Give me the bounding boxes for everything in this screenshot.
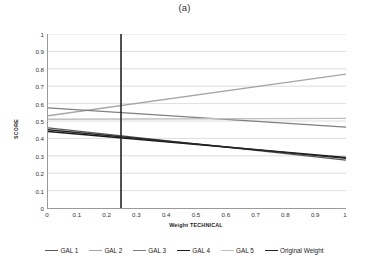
legend-item[interactable]: GAL 3 bbox=[133, 247, 166, 254]
x-tick-label: 0.6 bbox=[214, 211, 238, 218]
x-tick-label: 0.1 bbox=[65, 211, 89, 218]
x-tick-label: 0.3 bbox=[124, 211, 148, 218]
series-line bbox=[48, 108, 346, 127]
y-axis-tick-labels: 1 0.9 0.8 0.7 0.6 0.5 0.4 0.3 0.2 0.1 0 bbox=[14, 18, 44, 218]
plot-region bbox=[47, 34, 346, 209]
legend-item-label: GAL 1 bbox=[60, 247, 78, 254]
chart-legend: GAL 1GAL 2GAL 3GAL 4GAL 5Original Weight bbox=[0, 240, 369, 260]
series-line bbox=[48, 130, 346, 159]
legend-item-label: GAL 4 bbox=[192, 247, 210, 254]
y-tick-label: 1 bbox=[18, 31, 44, 38]
y-tick-label: 0.2 bbox=[18, 170, 44, 177]
x-tick-label: 0.5 bbox=[184, 211, 208, 218]
series-line bbox=[48, 74, 346, 116]
y-tick-label: 0.5 bbox=[18, 118, 44, 125]
y-tick-label: 0.3 bbox=[18, 153, 44, 160]
legend-item-label: Original Weight bbox=[280, 247, 324, 254]
legend-swatch-icon bbox=[221, 250, 234, 251]
legend-item-label: GAL 5 bbox=[236, 247, 254, 254]
legend-item[interactable]: GAL 2 bbox=[89, 247, 122, 254]
y-tick-label: 0.9 bbox=[18, 48, 44, 55]
legend-item[interactable]: GAL 1 bbox=[45, 247, 78, 254]
chart-area: SCORE 1 0.9 0.8 0.7 0.6 0.5 0.4 0.3 0.2 … bbox=[0, 18, 369, 240]
series-line bbox=[48, 118, 346, 119]
x-tick-label: 0.9 bbox=[303, 211, 327, 218]
series-canvas bbox=[48, 34, 346, 208]
x-tick-label: 0.8 bbox=[273, 211, 297, 218]
y-tick-label: 0.7 bbox=[18, 83, 44, 90]
legend-swatch-icon bbox=[89, 250, 102, 251]
legend-item-label: GAL 2 bbox=[104, 247, 122, 254]
figure-panel: (a) SCORE 1 0.9 0.8 0.7 0.6 0.5 0.4 0.3 … bbox=[0, 0, 369, 268]
legend-swatch-icon bbox=[133, 250, 146, 251]
y-tick-label: 0.8 bbox=[18, 66, 44, 73]
figure-title: (a) bbox=[0, 2, 369, 13]
legend-swatch-icon bbox=[177, 250, 190, 251]
legend-swatch-icon bbox=[45, 250, 58, 251]
x-tick-label: 0.4 bbox=[154, 211, 178, 218]
legend-item[interactable]: GAL 5 bbox=[221, 247, 254, 254]
x-tick-label: 0.2 bbox=[95, 211, 119, 218]
x-tick-label: 0.7 bbox=[244, 211, 268, 218]
gridlines bbox=[48, 34, 346, 191]
legend-item[interactable]: GAL 4 bbox=[177, 247, 210, 254]
x-tick-label: 1 bbox=[333, 211, 357, 218]
y-tick-label: 0.6 bbox=[18, 101, 44, 108]
x-axis-label: Weight TECHNICAL bbox=[47, 222, 345, 228]
y-tick-label: 0.4 bbox=[18, 135, 44, 142]
legend-item[interactable]: Original Weight bbox=[265, 247, 324, 254]
data-series-group bbox=[48, 74, 346, 160]
legend-swatch-icon bbox=[265, 250, 278, 251]
x-tick-label: 0 bbox=[35, 211, 59, 218]
y-tick-label: 0.1 bbox=[18, 188, 44, 195]
legend-item-label: GAL 3 bbox=[148, 247, 166, 254]
